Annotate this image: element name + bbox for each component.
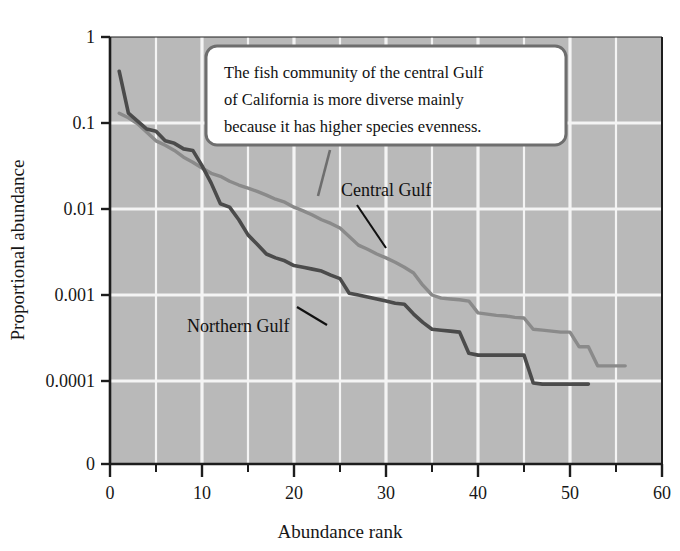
- x-tick-label: 40: [469, 483, 487, 503]
- figure-container: 10.10.010.0010.00010 0102030405060 Abund…: [0, 0, 680, 551]
- x-tick-label: 20: [285, 483, 303, 503]
- x-tick-label: 10: [193, 483, 211, 503]
- callout-line-2: of California is more diverse mainly: [224, 90, 464, 109]
- series-label-northern-gulf: Northern Gulf: [187, 316, 289, 336]
- y-tick-label: 0.1: [73, 113, 96, 133]
- y-axis-title: Proportional abundance: [7, 160, 28, 341]
- y-tick-label: 0.0001: [46, 371, 96, 391]
- y-tick-label: 0: [86, 454, 95, 474]
- series-label-central-gulf: Central Gulf: [341, 180, 431, 200]
- y-tick-label: 1: [86, 27, 95, 47]
- callout-line-3: because it has higher species evenness.: [224, 117, 482, 136]
- y-axis-ticks: 10.10.010.0010.00010: [46, 27, 111, 474]
- x-tick-label: 30: [377, 483, 395, 503]
- callout-line-1: The fish community of the central Gulf: [224, 63, 484, 82]
- x-tick-label: 0: [106, 483, 115, 503]
- x-axis-ticks: 0102030405060: [106, 464, 672, 503]
- x-tick-label: 50: [561, 483, 579, 503]
- y-tick-label: 0.001: [55, 285, 96, 305]
- x-tick-label: 60: [653, 483, 671, 503]
- rank-abundance-chart: 10.10.010.0010.00010 0102030405060 Abund…: [0, 0, 680, 551]
- y-tick-label: 0.01: [64, 199, 96, 219]
- x-axis-title: Abundance rank: [277, 521, 403, 542]
